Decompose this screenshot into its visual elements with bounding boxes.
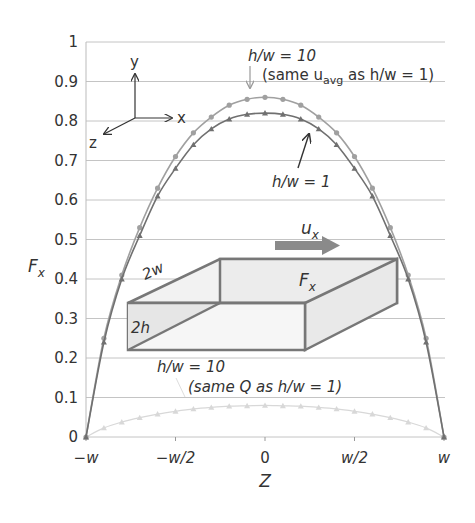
x-tick-label: w (438, 449, 451, 467)
annotation-same-q: h/w = 10 (same Q as h/w = 1) (157, 358, 342, 397)
y-tick-label: 0.8 (54, 112, 78, 130)
y-tick-label: 0.2 (54, 349, 78, 367)
flow-direction-arrow (275, 236, 340, 255)
annotation-hw1: h/w = 1 (272, 134, 330, 191)
svg-text:2h: 2h (131, 319, 150, 337)
y-tick-label: 0 (68, 428, 78, 446)
channel-box-diagram: 2w 2h Fx ux (128, 218, 397, 350)
svg-text:(same uavg as h/w = 1): (same uavg as h/w = 1) (262, 66, 434, 87)
y-tick-label: 0.4 (54, 270, 78, 288)
velocity-profile-chart: 00.10.20.30.40.50.60.70.80.91 −w−w/20w/2… (0, 0, 475, 523)
svg-text:2w: 2w (139, 258, 167, 284)
x-tick-label: w/2 (341, 449, 368, 467)
series-2 (83, 402, 447, 439)
y-tick-label: 0.9 (54, 73, 78, 91)
x-tick-label: 0 (260, 449, 270, 467)
y-tick-label: 0.7 (54, 152, 78, 170)
x-axis-ticks: −w−w/20w/2w (74, 437, 451, 467)
coordinate-axes-icon: y x z (89, 53, 186, 152)
flow-velocity-label: ux (301, 218, 320, 242)
y-tick-label: 0.5 (54, 231, 78, 249)
y-tick-label: 0.1 (54, 389, 78, 407)
svg-text:z: z (89, 134, 97, 152)
x-axis-label: Z (258, 471, 271, 491)
annotation-same-uavg: h/w = 10 (same uavg as h/w = 1) (248, 47, 434, 88)
svg-text:y: y (130, 53, 139, 71)
svg-text:h/w = 1: h/w = 1 (272, 173, 330, 191)
x-tick-label: −w (74, 449, 100, 467)
x-tick-label: −w/2 (156, 449, 195, 467)
y-tick-label: 0.3 (54, 310, 78, 328)
svg-text:x: x (177, 109, 186, 127)
y-axis-ticks: 00.10.20.30.40.50.60.70.80.91 (54, 33, 78, 446)
svg-text:h/w = 10: h/w = 10 (248, 47, 316, 65)
y-tick-label: 1 (68, 33, 78, 51)
y-tick-label: 0.6 (54, 191, 78, 209)
y-axis-label: Fx (28, 256, 46, 280)
svg-text:h/w = 10: h/w = 10 (157, 358, 225, 376)
svg-text:(same Q as h/w = 1): (same Q as h/w = 1) (188, 378, 342, 396)
